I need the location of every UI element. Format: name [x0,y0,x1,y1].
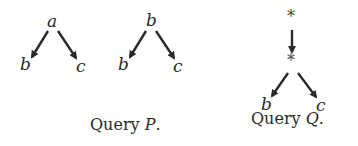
edge-b-c [156,31,174,58]
caption-variable: Q [306,109,319,128]
caption-variable: P [145,115,156,134]
diagram-canvas: a b c b b c Query P. * * b c Query Q. [0,0,358,146]
tree2-right-node: c [173,58,183,75]
tree1-right-node: c [76,58,86,75]
edge-a-b [32,31,48,57]
q-middle-wildcard-node: * [287,53,295,69]
query-p-caption: Query P. [90,117,161,133]
tree1-root-node: a [47,13,57,30]
caption-period: . [319,109,324,128]
edge-star-b [272,73,288,96]
tree1-left-node: b [20,56,31,73]
tree2-left-node: b [118,56,129,73]
edge-a-c [58,31,76,58]
edge-b-b [130,31,146,57]
edge-star-c [298,73,316,97]
caption-word: Query [90,115,140,134]
caption-word: Query [251,109,301,128]
tree2-root-node: b [146,12,157,29]
caption-period: . [155,115,160,134]
query-q-caption: Query Q. [251,111,324,127]
q-top-wildcard-node: * [287,9,295,25]
